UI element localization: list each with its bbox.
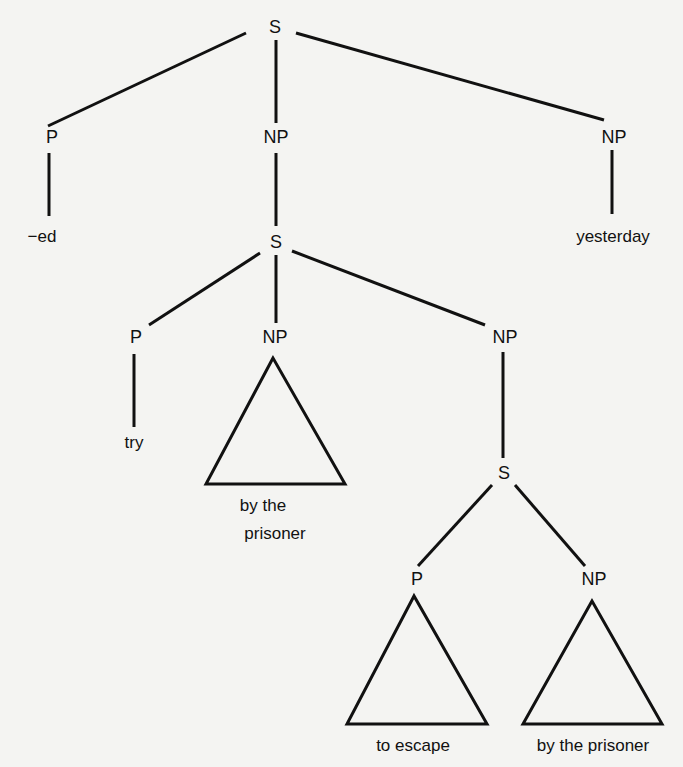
constituent-triangle [347,596,487,724]
leaf-label: yesterday [576,228,650,245]
constituent-triangle [523,601,662,724]
tree-edge [515,485,585,566]
constituent-triangle [206,358,345,484]
node-label: S [270,233,282,251]
tree-edge [149,253,260,325]
tree-edge [292,251,485,325]
leaf-label: try [125,434,144,451]
node-label: NP [601,128,626,146]
node-label: S [498,464,510,482]
node-label: NP [581,570,606,588]
node-label: P [411,570,423,588]
tree-edges [0,0,683,767]
tree-edge [48,33,246,126]
leaf-label: to escape [376,737,450,754]
node-label: NP [492,328,517,346]
node-label: NP [263,128,288,146]
node-label: S [269,18,281,36]
leaf-label: by the prisoner [537,737,649,754]
syntax-tree-diagram: SPNPNP−edSyesterdayPNPNPtryby theprisone… [0,0,683,767]
leaf-label: by the [240,497,286,514]
leaf-label: prisoner [244,525,305,542]
leaf-label: −ed [28,228,57,245]
node-label: P [130,328,142,346]
node-label: P [46,128,58,146]
tree-edge [296,33,604,120]
tree-edge [418,485,492,566]
node-label: NP [262,328,287,346]
